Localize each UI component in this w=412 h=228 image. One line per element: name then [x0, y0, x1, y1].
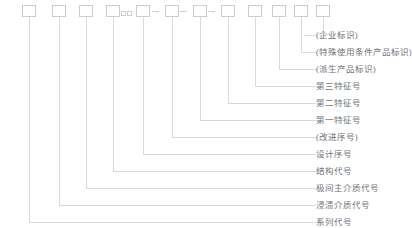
leader-tick-11 — [304, 205, 316, 206]
leader-vertical-7 — [172, 17, 173, 137]
code-box-4[interactable] — [106, 5, 120, 17]
leader-tick-9 — [304, 171, 316, 172]
leader-vertical-10 — [86, 17, 87, 188]
leader-tick-6 — [304, 120, 316, 121]
leader-vertical-9 — [113, 17, 114, 171]
callout-label-2: (特殊使用条件产品标识) — [316, 48, 412, 57]
leader-horizontal-10 — [86, 188, 304, 189]
leader-vertical-2 — [301, 17, 302, 52]
leader-vertical-3 — [279, 17, 280, 69]
leader-tick-8 — [304, 154, 316, 155]
leader-tick-5 — [304, 103, 316, 104]
code-box-9[interactable] — [248, 5, 262, 17]
callout-label-10: 极间主介质代号 — [316, 184, 379, 193]
callout-label-5: 第二特征号 — [316, 99, 361, 108]
leader-tick-7 — [304, 137, 316, 138]
leader-horizontal-9 — [113, 171, 304, 172]
callout-label-8: 设计序号 — [316, 150, 352, 159]
leader-horizontal-12 — [29, 222, 304, 223]
leader-horizontal-4 — [255, 86, 304, 87]
callout-label-1: (企业标识) — [316, 31, 358, 40]
leader-tick-2 — [304, 52, 316, 53]
leader-horizontal-5 — [228, 103, 304, 104]
leader-tick-12 — [304, 222, 316, 223]
code-box-11[interactable] — [294, 5, 308, 17]
code-box-6[interactable] — [165, 5, 179, 17]
code-sub-1[interactable] — [121, 11, 126, 16]
leader-vertical-6 — [200, 17, 201, 120]
leader-horizontal-7 — [172, 137, 304, 138]
leader-vertical-8 — [143, 17, 144, 154]
leader-vertical-5 — [228, 17, 229, 103]
code-box-5[interactable] — [136, 5, 150, 17]
leader-horizontal-11 — [59, 205, 304, 206]
callout-label-9: 结构代号 — [316, 167, 352, 176]
leader-horizontal-8 — [143, 154, 304, 155]
code-box-10[interactable] — [272, 5, 286, 17]
code-sub-2[interactable] — [127, 11, 132, 16]
leader-tick-3 — [304, 69, 316, 70]
callout-label-6: 第一特征号 — [316, 116, 361, 125]
leader-tick-10 — [304, 188, 316, 189]
leader-horizontal-3 — [279, 69, 304, 70]
leader-vertical-12 — [29, 17, 30, 222]
callout-label-12: 系列代号 — [316, 218, 352, 227]
leader-tick-1 — [304, 35, 316, 36]
callout-label-4: 第三特征号 — [316, 82, 361, 91]
leader-horizontal-6 — [200, 120, 304, 121]
leader-tick-4 — [304, 86, 316, 87]
separator-dash-3 — [208, 11, 215, 12]
code-box-7[interactable] — [193, 5, 207, 17]
callout-label-3: (派生产品标识) — [316, 65, 376, 74]
separator-dash-1 — [152, 11, 159, 12]
code-box-8[interactable] — [221, 5, 235, 17]
leader-vertical-11 — [59, 17, 60, 205]
leader-vertical-4 — [255, 17, 256, 86]
callout-label-11: 浸渍介质代号 — [316, 201, 370, 210]
code-box-1[interactable] — [22, 5, 36, 17]
callout-label-7: (改进序号) — [316, 133, 358, 142]
code-box-3[interactable] — [79, 5, 93, 17]
separator-dash-2 — [180, 11, 187, 12]
code-box-12[interactable] — [316, 5, 330, 17]
code-box-2[interactable] — [52, 5, 66, 17]
